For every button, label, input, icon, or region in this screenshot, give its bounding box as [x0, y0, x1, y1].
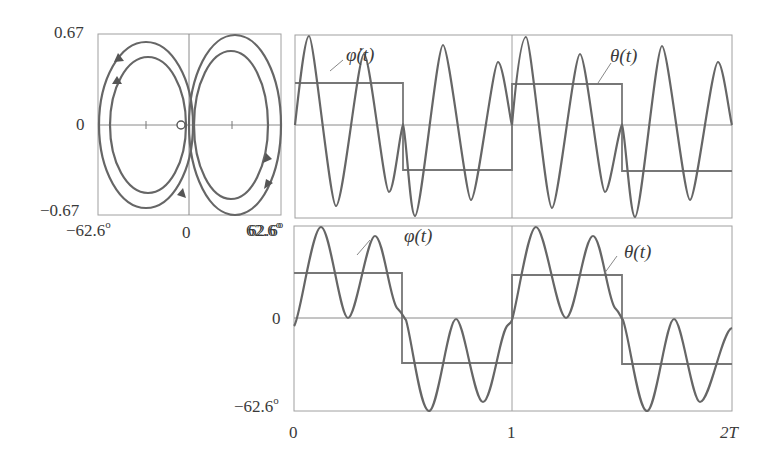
top-theta-leader [598, 63, 611, 83]
bot-y-max-label: 62.6o [248, 222, 283, 239]
x-tick-0: 0 [289, 424, 298, 441]
bot-y-zero-label: 0 [272, 310, 281, 327]
bottom-theta-label: θ(t) [624, 242, 651, 261]
degree-symbol: o [105, 218, 111, 230]
bot-y-min-label: −62.6o [234, 398, 279, 415]
top-theta-label: θ(t) [610, 46, 637, 65]
x-tick-2T: 2T [720, 424, 738, 441]
bot-y-min-value: −62.6 [234, 397, 273, 416]
start-point-marker [177, 121, 185, 129]
pp-x-min-value: −62.6 [66, 221, 105, 240]
phi-dot-leader [330, 60, 343, 71]
top-theta-step [295, 83, 732, 171]
degree-symbol: o [278, 218, 284, 230]
pp-y-max-label: 0.67 [54, 24, 84, 41]
figure-canvas [0, 0, 781, 459]
bottom-time-chart [294, 226, 732, 411]
degree-symbol: o [273, 394, 279, 406]
pp-y-min-label: −0.67 [40, 202, 79, 219]
x-tick-1: 1 [507, 424, 516, 441]
phi-curve [294, 227, 732, 411]
bottom-theta-leader [604, 256, 617, 274]
phase-portrait [98, 34, 281, 215]
pp-y-zero-label: 0 [76, 116, 85, 133]
phi-label: φ(t) [404, 226, 432, 245]
pp-x-zero-label: 0 [182, 224, 191, 241]
pp-x-min-label: −62.6o [66, 222, 111, 239]
phi-dot-label: φ̇(t) [346, 45, 374, 64]
bot-y-max-value: 62.6 [248, 221, 278, 240]
